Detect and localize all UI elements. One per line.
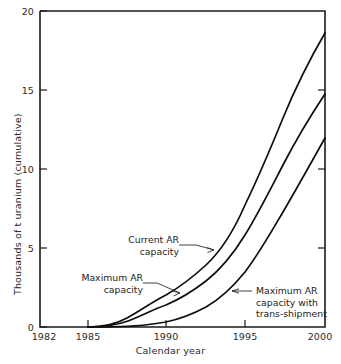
y-axis-title: Thousands of t uranium (cumulative)	[12, 113, 23, 295]
annotation-current-ar-capacity: Current AR capacity	[104, 234, 179, 257]
annotation-trans-shipment-line2: capacity with	[256, 297, 336, 309]
annotation-maximum-ar-capacity-line2: capacity	[60, 284, 143, 296]
y-tick-label-0: 0	[8, 322, 34, 333]
x-tick-label-2000: 2000	[308, 331, 333, 342]
annotation-current-ar-capacity-line2: capacity	[104, 246, 179, 258]
y-tick-label-20: 20	[8, 6, 34, 17]
leader-maximum-ar-capacity-trans-shipment	[232, 289, 252, 293]
annotation-maximum-ar-capacity-line1: Maximum AR	[60, 272, 143, 284]
x-tick-label-1982: 1982	[32, 331, 57, 342]
x-tick-label-1990: 1990	[154, 331, 179, 342]
chart-figure: 20 15 10 5 0 1982 1985 1990 1995 2000 Ca…	[0, 0, 341, 364]
annotation-maximum-ar-capacity-trans-shipment: Maximum AR capacity with trans-shipment	[256, 285, 336, 320]
y-tick-label-15: 15	[8, 85, 34, 96]
x-tick-label-1985: 1985	[76, 331, 101, 342]
annotation-trans-shipment-line1: Maximum AR	[256, 285, 336, 297]
x-tick-label-1995: 1995	[233, 331, 258, 342]
annotation-trans-shipment-line3: trans-shipment	[256, 308, 336, 320]
annotation-maximum-ar-capacity: Maximum AR capacity	[60, 272, 143, 295]
x-axis-title: Calendar year	[0, 345, 341, 356]
leader-current-ar-capacity	[179, 245, 214, 253]
annotation-current-ar-capacity-line1: Current AR	[104, 234, 179, 246]
